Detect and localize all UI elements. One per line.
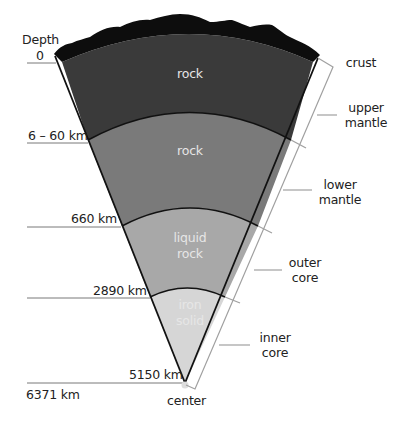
material-label-inner-core: iron solid bbox=[160, 297, 220, 329]
depth-label-660km: 660 km bbox=[71, 211, 117, 226]
center-label: center bbox=[167, 393, 206, 408]
material-label-upper-mantle: rock bbox=[160, 66, 220, 82]
layer-label-inner-core: inner core bbox=[250, 330, 300, 360]
depth-label-6371km: 6371 km bbox=[26, 387, 80, 402]
earth-layers-diagram: Depth 0 6 – 60 km 660 km 2890 km 5150 km… bbox=[0, 0, 404, 422]
material-label-outer-core: liquid rock bbox=[160, 230, 220, 262]
material-label-lower-mantle: rock bbox=[160, 143, 220, 159]
layer-label-outer-core: outer core bbox=[280, 255, 330, 285]
depth-axis-title: Depth bbox=[22, 32, 59, 47]
layer-label-upper-mantle: upper mantle bbox=[338, 100, 394, 130]
depth-label-2890km: 2890 km bbox=[93, 283, 147, 298]
depth-label-0: 0 bbox=[36, 48, 44, 63]
layer-label-crust: crust bbox=[336, 55, 386, 70]
layer-label-lower-mantle: lower mantle bbox=[312, 177, 368, 207]
depth-label-6-60km: 6 – 60 km bbox=[28, 128, 88, 143]
depth-label-5150km: 5150 km bbox=[129, 367, 183, 382]
